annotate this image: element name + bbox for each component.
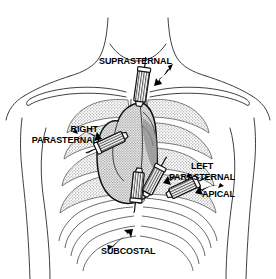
probe-barrel xyxy=(131,172,145,201)
label-left-parasternal-line1: LEFT xyxy=(160,161,244,172)
echocardiography-transducer-windows-figure: SUPRASTERNAL RIGHT PARASTERNAL LEFT PARA… xyxy=(0,0,276,279)
probe-face xyxy=(135,101,144,107)
label-right-parasternal-line2: PARASTERNAL xyxy=(2,135,98,146)
label-subcostal: SUBCOSTAL xyxy=(101,246,155,256)
label-apical: APICAL xyxy=(202,189,235,199)
label-right-parasternal-line1: RIGHT xyxy=(2,124,98,135)
label-left-parasternal-line2: PARASTERNAL xyxy=(160,172,244,183)
probe-face xyxy=(135,168,143,173)
label-suprasternal: SUPRASTERNAL xyxy=(99,56,172,66)
label-right-parasternal: RIGHT PARASTERNAL xyxy=(2,124,98,145)
probe-cable-collar xyxy=(130,198,142,203)
label-left-parasternal: LEFT PARASTERNAL xyxy=(160,161,244,182)
